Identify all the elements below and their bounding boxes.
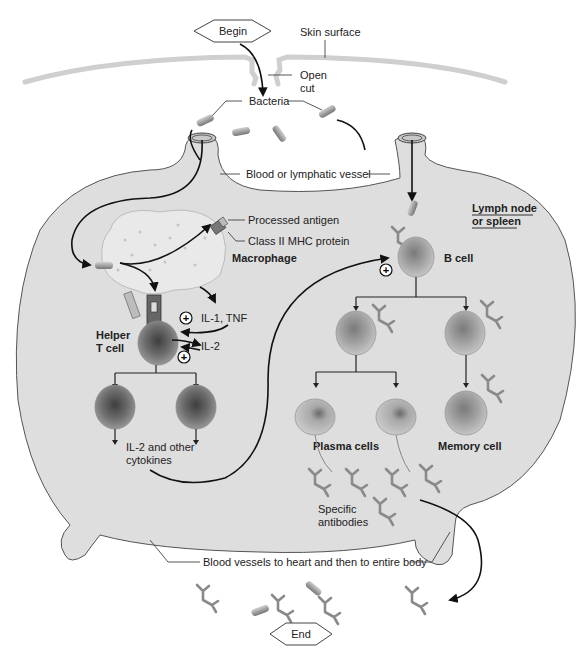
stimulate-icon: + bbox=[180, 312, 192, 324]
antibodies-label-1: Specific bbox=[318, 503, 357, 515]
memory-cell-label: Memory cell bbox=[438, 440, 502, 452]
helper-t-label-1: Helper bbox=[96, 329, 131, 341]
t-cell-clone bbox=[176, 385, 216, 429]
il1-tnf-label: IL-1, TNF bbox=[201, 312, 248, 324]
plasma-cells-label: Plasma cells bbox=[313, 440, 379, 452]
plasma-cell bbox=[295, 399, 335, 435]
stimulate-icon: + bbox=[178, 351, 190, 363]
cytokines-label-1: IL-2 and other bbox=[126, 441, 195, 453]
memory-cell bbox=[445, 391, 487, 435]
b-cell-label: B cell bbox=[444, 252, 473, 264]
activated-b-cell bbox=[445, 311, 485, 355]
immune-response-diagram: Begin Skin surface Open cut Bacteria Blo… bbox=[0, 0, 584, 663]
end-label: End bbox=[291, 628, 311, 640]
vessel-label: Blood or lymphatic vessel bbox=[246, 168, 371, 180]
plasma-cell bbox=[376, 399, 416, 435]
lymph-node-label-1: Lymph node bbox=[472, 202, 537, 214]
svg-text:+: + bbox=[183, 312, 189, 324]
il2-label: IL-2 bbox=[201, 340, 220, 352]
mhc-protein-label: Class II MHC protein bbox=[248, 235, 349, 247]
lymph-node-label-2: or spleen bbox=[472, 215, 521, 227]
b-cell bbox=[398, 237, 434, 277]
processed-antigen-label: Processed antigen bbox=[248, 214, 339, 226]
begin-label: Begin bbox=[219, 25, 247, 37]
skin-surface-label: Skin surface bbox=[300, 26, 361, 38]
t-cell-clone bbox=[95, 385, 135, 429]
open-cut-label-1: Open bbox=[300, 69, 327, 81]
bacteria-label: Bacteria bbox=[249, 95, 290, 107]
helper-t-label-2: T cell bbox=[96, 342, 124, 354]
macrophage-label: Macrophage bbox=[232, 252, 297, 264]
skin-surface bbox=[25, 57, 505, 84]
bacteria-group bbox=[196, 104, 337, 143]
end-node: End bbox=[270, 623, 332, 645]
cytokines-label-2: cytokines bbox=[126, 454, 172, 466]
macrophage bbox=[95, 210, 226, 294]
stimulate-icon: + bbox=[380, 264, 392, 276]
begin-node: Begin bbox=[194, 20, 271, 42]
svg-text:+: + bbox=[383, 264, 389, 276]
open-cut-label-2: cut bbox=[300, 82, 315, 94]
bacterium bbox=[251, 604, 270, 617]
helper-t-cell bbox=[138, 321, 178, 365]
activated-b-cell bbox=[336, 311, 376, 355]
svg-text:+: + bbox=[181, 351, 187, 363]
antibodies-label-2: antibodies bbox=[318, 516, 369, 528]
blood-vessels-label: Blood vessels to heart and then to entir… bbox=[203, 556, 427, 568]
bacterium bbox=[305, 580, 323, 597]
